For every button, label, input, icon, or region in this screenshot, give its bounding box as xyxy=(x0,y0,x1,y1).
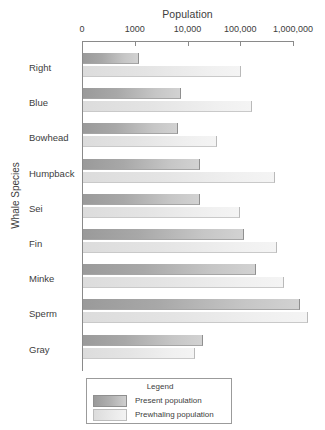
category-label-sperm: Sperm xyxy=(0,308,74,319)
legend-label-present: Present population xyxy=(135,396,202,405)
chart-title: Population xyxy=(82,8,293,20)
category-label-minke: Minke xyxy=(0,273,74,284)
bar-blue-present xyxy=(83,88,181,99)
bar-bowhead-present xyxy=(83,123,178,134)
bar-right-prewhaling xyxy=(83,66,241,77)
x-axis-tick-labels: 0100010,000100,0001,000,000 xyxy=(0,24,325,38)
prewhaling-swatch-icon xyxy=(93,409,127,421)
category-label-right: Right xyxy=(0,62,74,73)
y-axis-title: Whale Species xyxy=(10,151,21,241)
bar-sperm-present xyxy=(83,299,300,310)
bar-gray-prewhaling xyxy=(83,348,195,359)
x-tick-label: 100,000 xyxy=(224,24,257,34)
bar-humpback-present xyxy=(83,159,200,170)
x-tick-label: 1000 xyxy=(125,24,145,34)
present-swatch-icon xyxy=(93,395,127,407)
whale-population-chart: Population 0100010,000100,0001,000,000 W… xyxy=(0,0,325,430)
bar-blue-prewhaling xyxy=(83,101,252,112)
x-tick-label: 10,000 xyxy=(174,24,202,34)
category-label-gray: Gray xyxy=(0,344,74,355)
bar-minke-prewhaling xyxy=(83,277,284,288)
x-tick-label: 1,000,000 xyxy=(273,24,313,34)
legend-entry-present: Present population xyxy=(93,395,229,408)
bar-fin-prewhaling xyxy=(83,242,277,253)
category-label-humpback: Humpback xyxy=(0,168,74,179)
category-label-sei: Sei xyxy=(0,203,74,214)
x-tick-mark xyxy=(240,41,241,46)
x-tick-mark xyxy=(82,41,83,46)
x-tick-mark xyxy=(188,41,189,46)
legend-title: Legend xyxy=(87,382,233,391)
category-label-fin: Fin xyxy=(0,238,74,249)
bar-sei-prewhaling xyxy=(83,207,240,218)
category-label-bowhead: Bowhead xyxy=(0,132,74,143)
bar-fin-present xyxy=(83,229,244,240)
x-tick-mark xyxy=(135,41,136,46)
legend-entry-prewhaling: Prewhaling population xyxy=(93,409,229,422)
bar-right-present xyxy=(83,53,139,64)
bar-humpback-prewhaling xyxy=(83,172,275,183)
bar-sei-present xyxy=(83,194,200,205)
bar-sperm-prewhaling xyxy=(83,312,308,323)
bar-gray-present xyxy=(83,335,203,346)
x-tick-label: 0 xyxy=(79,24,84,34)
bar-bowhead-prewhaling xyxy=(83,136,217,147)
legend-label-prewhaling: Prewhaling population xyxy=(135,410,214,419)
x-tick-mark xyxy=(293,41,294,46)
bar-minke-present xyxy=(83,264,256,275)
legend: Legend Present population Prewhaling pop… xyxy=(86,378,232,424)
category-label-blue: Blue xyxy=(0,97,74,108)
